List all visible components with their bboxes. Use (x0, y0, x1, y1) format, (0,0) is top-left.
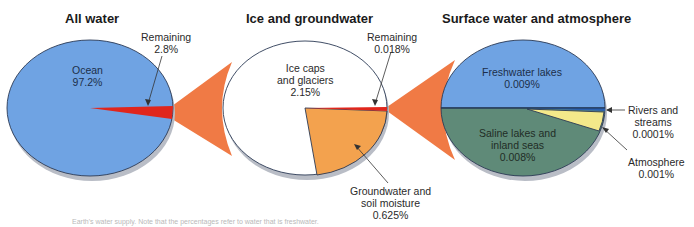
pie-charts-graphic (0, 0, 694, 227)
label-ice-caps: Ice capsand glaciers2.15% (277, 62, 334, 98)
label-rivers: Rivers andstreams0.0001% (628, 104, 678, 140)
label-freshwater: Freshwater lakes0.009% (482, 66, 562, 90)
title-ice-groundwater: Ice and groundwater (246, 11, 373, 26)
label-saline: Saline lakes andinland seas0.008% (479, 127, 556, 163)
pie-all-water (7, 40, 175, 181)
label-remaining-1: Remaining2.8% (141, 31, 191, 55)
label-groundwater: Groundwater andsoil moisture0.625% (350, 185, 431, 221)
water-distribution-figure: All water Ice and groundwater Surface wa… (0, 0, 694, 227)
label-atmosphere: Atmosphere0.001% (628, 156, 685, 180)
title-surface-atmosphere: Surface water and atmosphere (442, 11, 631, 26)
title-all-water: All water (65, 11, 119, 26)
label-ocean: Ocean97.2% (72, 64, 103, 88)
figure-caption: Earth's water supply. Note that the perc… (72, 218, 319, 225)
slice-groundwater (305, 108, 387, 175)
label-remaining-2: Remaining0.018% (367, 31, 417, 55)
